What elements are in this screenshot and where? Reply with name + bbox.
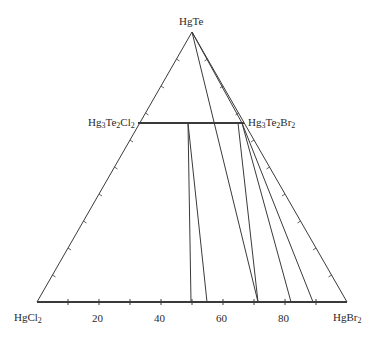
subscript: 2 [291,121,295,130]
vertex-label-hgbr2: HgBr2 [333,312,361,325]
subscript: 2 [357,316,361,325]
label-part: Hg [88,116,101,128]
vertex-label-text: HgTe [179,15,203,27]
label-part: Te [265,116,276,128]
tie-line [192,32,258,302]
axis-tick-label: 20 [92,313,103,324]
ternary-diagram [0,0,380,339]
phase-label-hg3te2cl2: Hg3Te2Cl2 [88,117,135,130]
vertex-label-hgcl2: HgCl2 [14,312,42,325]
subscript: 2 [131,121,135,130]
tie-line [192,32,242,123]
left-edge-ticks [53,59,180,277]
phase-label-hg3te2br2: Hg3Te2Br2 [248,117,295,130]
label-part: Br [280,116,291,128]
label-part: Te [105,116,116,128]
right-edge-ticks [205,59,332,277]
tie-line [242,123,291,302]
tie-line [238,123,258,302]
tie-line [242,123,313,302]
vertex-label-text: HgCl [14,311,38,323]
axis-tick-label: 80 [278,313,289,324]
axis-tick-label: 60 [216,313,227,324]
subscript: 2 [38,316,42,325]
vertex-label-text: HgBr [333,311,357,323]
label-part: Cl [120,116,130,128]
axis-tick-label: 40 [154,313,165,324]
label-part: Hg [248,116,261,128]
vertex-label-hgte: HgTe [179,16,203,27]
